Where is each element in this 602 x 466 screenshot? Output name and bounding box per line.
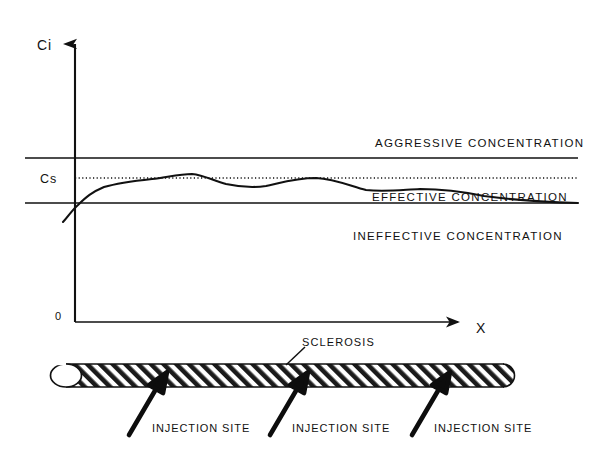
aggressive-concentration-label: AGGRESSIVE CONCENTRATION bbox=[375, 137, 584, 149]
x-axis-label: X bbox=[476, 320, 486, 336]
injection-site-label-2: INJECTION SITE bbox=[292, 422, 390, 434]
sclerosis-leader-line bbox=[286, 347, 305, 365]
figure-root: Ci X 0 Cs AGGRESSIVE CONCENTRATION EFFEC… bbox=[0, 0, 602, 466]
ineffective-concentration-label: INEFFECTIVE CONCENTRATION bbox=[353, 230, 563, 242]
cs-label: Cs bbox=[40, 172, 57, 186]
effective-concentration-label: EFFECTIVE CONCENTRATION bbox=[372, 191, 568, 203]
vessel-lumen-ellipse bbox=[51, 364, 82, 387]
injection-site-label-3: INJECTION SITE bbox=[434, 422, 532, 434]
injection-site-label-1: INJECTION SITE bbox=[152, 422, 250, 434]
concentration-profile-diagram: Ci X 0 Cs AGGRESSIVE CONCENTRATION EFFEC… bbox=[0, 0, 602, 466]
y-axis-label: Ci bbox=[37, 37, 52, 53]
sclerosis-label: SCLEROSIS bbox=[302, 336, 375, 348]
origin-label: 0 bbox=[55, 310, 62, 322]
